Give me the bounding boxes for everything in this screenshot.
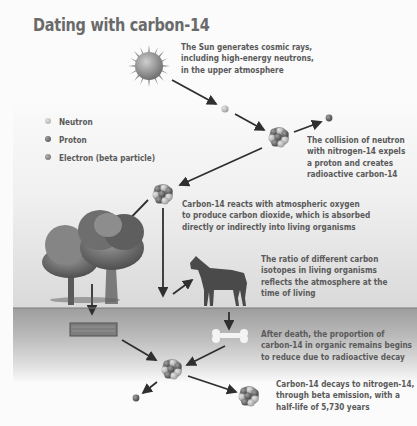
proton-icon: [326, 115, 333, 122]
arrow-nitrogen-to-proton: [294, 122, 321, 132]
arrow-nitrogen-to-carbon14: [180, 148, 262, 185]
arrow-nucleus-to-electron: [143, 382, 157, 393]
carbon-dating-diagram: Dating with carbon-14 Neutron Proton Ele…: [0, 0, 417, 426]
tree-icon: [42, 210, 144, 305]
wood-log-icon: [70, 323, 117, 336]
nitrogen-nucleus-icon: [268, 127, 289, 148]
carbon-14-nucleus-icon: [152, 184, 173, 205]
arrow-bone-to-nucleus: [187, 346, 225, 365]
step-sun-text: The Sun generates cosmic rays,including …: [181, 41, 314, 75]
step-ratio-text: The ratio of different carbonisotopes in…: [261, 253, 387, 298]
arrow-neutron-to-nitrogen: [235, 114, 264, 130]
bone-icon: [212, 329, 248, 343]
step-death-text: After death, the proportion ofcarbon-14 …: [261, 328, 412, 362]
arrow-to-horse: [173, 280, 192, 294]
sun-icon: [128, 45, 170, 87]
step-decay-text: Carbon-14 decays to nitrogen-14,through …: [276, 378, 414, 412]
electron-icon: [133, 395, 140, 402]
nitrogen-14-nucleus-icon: [238, 386, 259, 407]
neutron-icon: [221, 105, 228, 112]
step-co2-text: Carbon-14 reacts with atmospheric oxygen…: [182, 198, 370, 232]
step-collision-text: The collision of neutronwith nitrogen-14…: [307, 134, 405, 179]
arrow-sun-to-neutron: [172, 80, 216, 104]
horse-icon: [190, 256, 247, 306]
carbon-14-decaying-nucleus-icon: [161, 359, 182, 380]
arrow-wood-to-nucleus: [122, 340, 156, 360]
arrow-nucleus-to-nitrogen14: [188, 376, 236, 392]
